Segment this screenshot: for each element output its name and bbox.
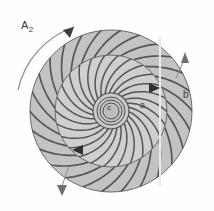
label-a: a [140,101,145,110]
label-b: b [183,90,189,100]
label-A2: A2 [21,20,33,34]
label-c: c [107,104,111,112]
hub-c [93,93,129,129]
diagram-canvas: A2 a b c [0,0,214,211]
